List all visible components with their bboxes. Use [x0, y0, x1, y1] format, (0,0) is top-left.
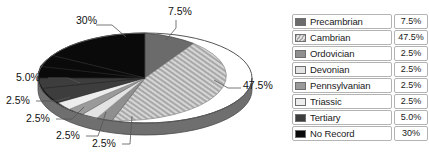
swatch-cambrian-icon: [295, 34, 306, 42]
legend-value-no-record: 30%: [402, 129, 420, 138]
legend-value-ordovician: 2.5%: [401, 49, 422, 58]
pie-slices: [38, 33, 252, 123]
legend-value-cell-pennsylvanian: 2.5%: [394, 78, 428, 93]
callout-pennsylvanian: 2.5%: [26, 113, 50, 124]
swatch-triassic-icon: [295, 98, 306, 106]
callout-ordovician: 2.5%: [92, 138, 116, 149]
legend-name-precambrian: Precambrian: [310, 17, 363, 27]
legend-row-precambrian[interactable]: Precambrian 7.5%: [292, 14, 428, 29]
legend-name-no-record: No Record: [310, 129, 355, 139]
callout-devonian: 2.5%: [56, 130, 80, 141]
callout-triassic: 2.5%: [6, 95, 30, 106]
legend-label-cell-ordovician: Ordovician: [292, 46, 392, 61]
legend-name-pennsylvanian: Pennsylvanian: [310, 81, 371, 91]
legend-value-precambrian: 7.5%: [401, 17, 422, 26]
legend-name-cambrian: Cambrian: [310, 33, 350, 43]
legend-label-cell-triassic: Triassic: [292, 94, 392, 109]
swatch-tertiary-icon: [295, 114, 306, 122]
legend-row-triassic[interactable]: Triassic 2.5%: [292, 94, 428, 109]
callout-no-record: 30%: [76, 15, 97, 26]
legend-value-cell-no-record: 30%: [394, 126, 428, 141]
legend-value-devonian: 2.5%: [401, 65, 422, 74]
legend-row-ordovician[interactable]: Ordovician 2.5%: [292, 46, 428, 61]
legend-row-pennsylvanian[interactable]: Pennsylvanian 2.5%: [292, 78, 428, 93]
swatch-devonian-icon: [295, 66, 306, 74]
legend-label-cell-pennsylvanian: Pennsylvanian: [292, 78, 392, 93]
legend-value-cell-precambrian: 7.5%: [394, 14, 428, 29]
pie-chart-screenshot: 7.5% 30% 47.5% 5.0% 2.5% 2.5% 2.5% 2.5% …: [0, 0, 429, 155]
legend-value-cell-ordovician: 2.5%: [394, 46, 428, 61]
legend-value-cell-tertiary: 5.0%: [394, 110, 428, 125]
legend-name-devonian: Devonian: [310, 65, 349, 75]
legend-value-cell-devonian: 2.5%: [394, 62, 428, 77]
legend-value-cambrian: 47.5%: [398, 33, 424, 42]
legend-label-cell-no-record: No Record: [292, 126, 392, 141]
legend-value-tertiary: 5.0%: [401, 113, 422, 122]
legend-label-cell-devonian: Devonian: [292, 62, 392, 77]
swatch-no-record-icon: [295, 130, 306, 138]
pie-svg: [0, 0, 290, 155]
callout-precambrian: 7.5%: [168, 6, 192, 17]
chart-legend: Precambrian 7.5% Cambrian 47.5% Ordovici…: [292, 14, 428, 142]
legend-value-pennsylvanian: 2.5%: [401, 81, 422, 90]
legend-label-cell-tertiary: Tertiary: [292, 110, 392, 125]
swatch-precambrian-icon: [295, 18, 306, 26]
legend-value-cell-cambrian: 47.5%: [394, 30, 428, 45]
legend-value-triassic: 2.5%: [401, 97, 422, 106]
swatch-pennsylvanian-icon: [295, 82, 306, 90]
legend-name-ordovician: Ordovician: [310, 49, 354, 59]
swatch-ordovician-icon: [295, 50, 306, 58]
legend-name-triassic: Triassic: [310, 97, 342, 107]
legend-value-cell-triassic: 2.5%: [394, 94, 428, 109]
legend-row-devonian[interactable]: Devonian 2.5%: [292, 62, 428, 77]
legend-label-cell-cambrian: Cambrian: [292, 30, 392, 45]
legend-row-cambrian[interactable]: Cambrian 47.5%: [292, 30, 428, 45]
callout-tertiary: 5.0%: [16, 72, 40, 83]
legend-name-tertiary: Tertiary: [310, 113, 340, 123]
legend-label-cell-precambrian: Precambrian: [292, 14, 392, 29]
pie-chart-graphic: 7.5% 30% 47.5% 5.0% 2.5% 2.5% 2.5% 2.5%: [0, 0, 290, 155]
callout-cambrian: 47.5%: [243, 80, 273, 91]
legend-row-tertiary[interactable]: Tertiary 5.0%: [292, 110, 428, 125]
legend-row-no-record[interactable]: No Record 30%: [292, 126, 428, 141]
